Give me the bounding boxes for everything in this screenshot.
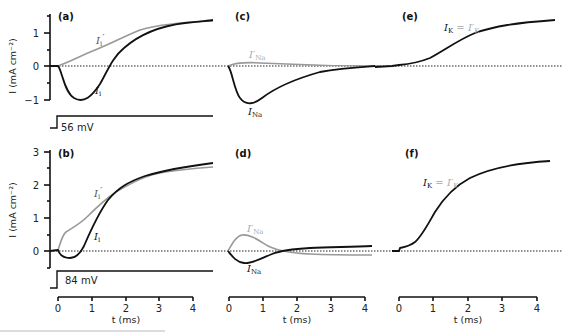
panel-b-x-ticks: 0 1 2 3 4 [55,303,196,314]
panel-d-black-label: INa [246,263,261,276]
panel-a-label: (a) [58,11,74,22]
panel-f-x-axis [399,297,537,301]
svg-text:1: 1 [260,303,266,314]
bottom-y-tick-0: 0 [33,246,39,257]
panel-c-gray-label: I′Na [248,49,266,62]
top-y-axis-title: I (mA cm⁻²) [7,38,18,93]
svg-text:4: 4 [190,303,196,314]
svg-text:1: 1 [89,303,95,314]
svg-text:3: 3 [156,303,162,314]
bottom-y-tick-3: 3 [33,147,39,158]
panel-f-x-ticks: 0 1 2 3 4 [396,303,540,314]
svg-text:3: 3 [328,303,334,314]
panel-b-step-label: 84 mV [65,275,98,286]
top-y-axis [44,14,50,100]
svg-text:0: 0 [396,303,402,314]
svg-text:4: 4 [534,303,540,314]
panel-b-gray-curve [50,167,213,251]
panel-e-label: (e) [402,11,418,22]
panel-b-x-axis [58,297,193,301]
panel-b-black-curve [50,163,213,258]
panel-d-gray-curve [228,235,372,255]
panel-c-black-curve [228,66,375,103]
panel-f-equation: IK = I′K [422,177,459,190]
bottom-y-axis [44,150,50,268]
bottom-y-tick-2: 2 [33,180,39,191]
svg-text:2: 2 [465,303,471,314]
panel-d-x-axis [229,297,365,301]
panel-e-equation: IK = I′K [443,22,480,35]
top-y-tick-neg1: −1 [24,95,39,106]
panel-c-black-label: INa [247,106,262,119]
panel-b-black-label: Ii [93,231,101,244]
top-y-tick-0: 0 [33,61,39,72]
panel-f-curve [392,161,550,251]
panel-b-label: (b) [58,148,74,159]
panel-d-gray-label: I′Na [246,223,264,236]
panel-d-x-axis-title: t (ms) [283,314,311,325]
panel-a-gray-curve [50,21,213,66]
svg-text:2: 2 [294,303,300,314]
panel-c-gray-curve [228,63,380,66]
panel-a-black-label: Ii [94,85,102,98]
svg-text:3: 3 [499,303,505,314]
panel-b-gray-label: Ii′ [93,185,103,201]
svg-text:0: 0 [226,303,232,314]
panel-d-x-ticks: 0 1 2 3 4 [226,303,368,314]
bottom-y-tick-1: 1 [33,213,39,224]
figure: 1 0 −1 I (mA cm⁻²) (a) Ii′ Ii 56 mV (c) … [0,0,562,336]
panel-f-label: (f) [405,148,419,159]
svg-text:4: 4 [362,303,368,314]
svg-text:1: 1 [430,303,436,314]
bottom-y-axis-title: I (mA cm⁻²) [7,182,18,237]
panel-a-step-label: 56 mV [61,122,94,133]
top-y-tick-1: 1 [33,28,39,39]
panel-b-x-axis-title: t (ms) [112,314,140,325]
svg-text:0: 0 [55,303,61,314]
panel-f-x-axis-title: t (ms) [454,314,482,325]
svg-text:2: 2 [123,303,129,314]
panel-d-label: (d) [235,148,251,159]
panel-c-label: (c) [235,11,250,22]
